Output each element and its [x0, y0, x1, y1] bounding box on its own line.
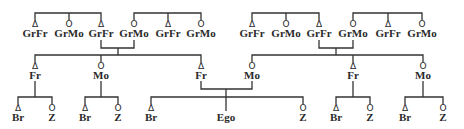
- node-label: Fr: [29, 70, 41, 81]
- grandparent-node: ΔGrFr: [88, 20, 113, 39]
- parent-node: OMo: [93, 62, 109, 81]
- parent-node: OMo: [415, 62, 431, 81]
- child-node: ΔBr: [145, 104, 157, 123]
- child-node: OZ: [366, 104, 373, 123]
- grandparent-node: ΔGrFr: [155, 20, 180, 39]
- node-label: GrFr: [306, 28, 331, 39]
- node-label: Br: [79, 112, 91, 123]
- node-label: GrMo: [119, 28, 148, 39]
- node-label: GrMo: [271, 28, 300, 39]
- grandparent-node: ΔGrFr: [22, 20, 47, 39]
- node-label: Mo: [415, 70, 431, 81]
- child-node: ΔBr: [79, 104, 91, 123]
- node-label: Mo: [93, 70, 109, 81]
- node-label: GrMo: [338, 28, 367, 39]
- node-label: Mo: [244, 70, 260, 81]
- grandparent-node: OGrMo: [119, 20, 148, 39]
- grandparent-node: OGrMo: [54, 20, 83, 39]
- node-label: Fr: [195, 70, 207, 81]
- node-label: Z: [299, 112, 306, 123]
- node-label: Br: [12, 112, 24, 123]
- child-node: OZ: [439, 104, 446, 123]
- grandparent-node: ΔGrFr: [375, 20, 400, 39]
- grandparent-node: ΔGrFr: [239, 20, 264, 39]
- child-node: ΔBr: [330, 104, 342, 123]
- node-label: GrFr: [375, 28, 400, 39]
- child-node: OZ: [114, 104, 121, 123]
- child-node: OZ: [299, 104, 306, 123]
- node-label: GrFr: [22, 28, 47, 39]
- child-node: OZ: [48, 104, 55, 123]
- node-label: GrMo: [407, 28, 436, 39]
- grandparent-node: OGrMo: [338, 20, 367, 39]
- node-label: GrMo: [54, 28, 83, 39]
- node-label: Z: [48, 112, 55, 123]
- ego-label: Ego: [217, 112, 235, 123]
- grandparent-node: ΔGrFr: [306, 20, 331, 39]
- node-label: Br: [145, 112, 157, 123]
- node-label: GrMo: [186, 28, 215, 39]
- grandparent-node: OGrMo: [407, 20, 436, 39]
- parent-node: OMo: [244, 62, 260, 81]
- parent-node: ΔFr: [195, 62, 207, 81]
- node-label: Br: [330, 112, 342, 123]
- node-label: GrFr: [88, 28, 113, 39]
- ego-node: Ego: [217, 112, 235, 123]
- node-label: GrFr: [155, 28, 180, 39]
- grandparent-node: OGrMo: [271, 20, 300, 39]
- grandparent-node: OGrMo: [186, 20, 215, 39]
- node-label: GrFr: [239, 28, 264, 39]
- child-node: ΔBr: [399, 104, 411, 123]
- child-node: ΔBr: [12, 104, 24, 123]
- parent-node: ΔFr: [29, 62, 41, 81]
- node-label: Fr: [347, 70, 359, 81]
- node-label: Br: [399, 112, 411, 123]
- node-label: Z: [439, 112, 446, 123]
- node-label: Z: [366, 112, 373, 123]
- parent-node: ΔFr: [347, 62, 359, 81]
- node-label: Z: [114, 112, 121, 123]
